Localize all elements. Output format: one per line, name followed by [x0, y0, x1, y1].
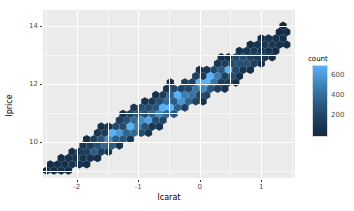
gridline [77, 10, 78, 178]
gridline [261, 10, 262, 178]
y-tick-mark [40, 142, 42, 143]
gridline [46, 10, 47, 178]
legend-title: count [308, 55, 328, 64]
legend-tick-label: 600 [331, 71, 344, 79]
legend-tick-label: 200 [331, 111, 344, 119]
gridline [230, 10, 231, 178]
gridline [200, 10, 201, 178]
gridline [43, 171, 295, 172]
x-tick-label: 0 [197, 183, 201, 192]
legend-tick-mark [328, 75, 331, 76]
plot-panel [43, 10, 295, 178]
legend-tick-labels: 200400600 [328, 65, 354, 135]
y-tick-mark [40, 84, 42, 85]
x-tick-mark [261, 180, 262, 182]
gridline [169, 10, 170, 178]
x-tick-label: -2 [73, 183, 80, 192]
x-axis-ticks: -2-101 [43, 180, 295, 190]
y-tick-label: 14 [16, 22, 38, 30]
gridline [43, 142, 295, 143]
gridline [43, 84, 295, 85]
y-axis-ticks: 101214 [16, 0, 38, 211]
legend-tick-mark [328, 95, 331, 96]
legend: count 200400600 [303, 55, 354, 150]
x-tick-label: -1 [135, 183, 142, 192]
x-tick-mark [138, 180, 139, 182]
gridline [108, 10, 109, 178]
legend-tick-label: 400 [331, 91, 344, 99]
legend-colorbar[interactable] [312, 65, 328, 137]
x-tick-label: 1 [259, 183, 263, 192]
gridline [43, 26, 295, 27]
gridline [138, 10, 139, 178]
gridline [292, 10, 293, 178]
x-tick-mark [77, 180, 78, 182]
y-axis-title: lprice [2, 0, 16, 211]
gridline [43, 55, 295, 56]
x-axis-title: lcarat [43, 192, 295, 204]
gridline [43, 113, 295, 114]
hexbin-chart: lprice 101214 -2-101 lcarat count 200400… [0, 0, 354, 211]
y-axis-title-text: lprice [5, 94, 14, 116]
y-tick-label: 12 [16, 80, 38, 88]
y-tick-label: 10 [16, 138, 38, 146]
y-tick-mark [40, 26, 42, 27]
legend-tick-mark [328, 115, 331, 116]
x-tick-mark [200, 180, 201, 182]
